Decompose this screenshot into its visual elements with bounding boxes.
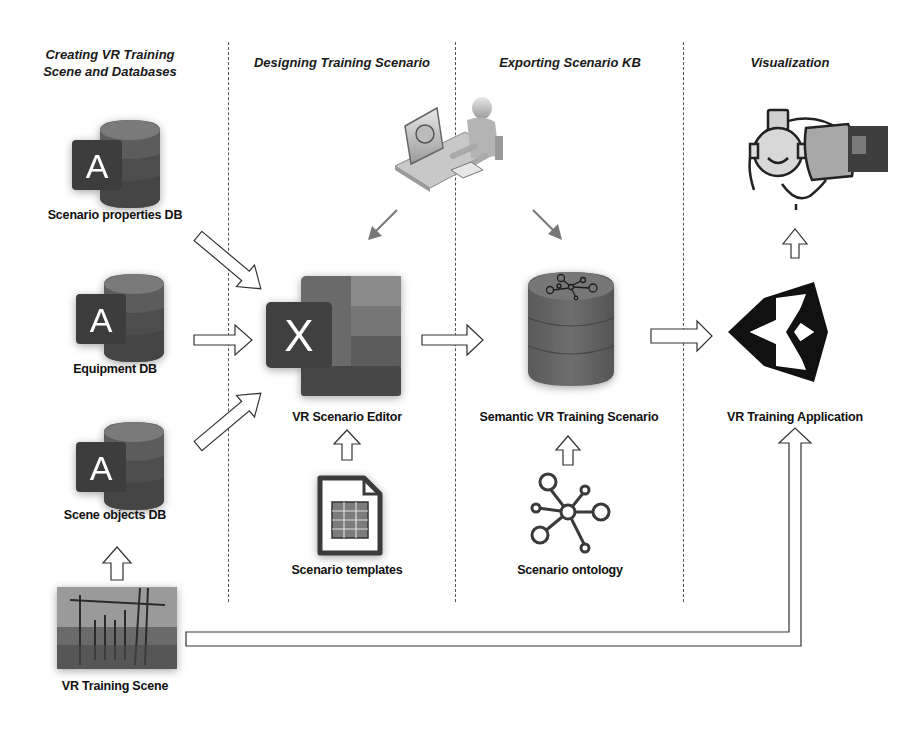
arrow-templates-to-editor bbox=[334, 430, 360, 460]
arrow-scene-to-application bbox=[186, 428, 811, 646]
unity-logo-icon bbox=[728, 282, 828, 382]
arrow-kb-to-application bbox=[651, 321, 712, 351]
label-vr-training-application: VR Training Application bbox=[695, 410, 895, 424]
arrow-editor-to-kb bbox=[422, 325, 483, 355]
arrow-user-to-kb bbox=[533, 210, 562, 240]
label-vr-scenario-editor: VR Scenario Editor bbox=[262, 410, 432, 424]
label-vr-training-scene: VR Training Scene bbox=[30, 679, 200, 693]
equipment-db-icon bbox=[76, 274, 164, 362]
arrow-equipment-to-editor bbox=[194, 325, 252, 355]
ontology-graph-icon bbox=[532, 474, 609, 552]
knowledge-base-database-icon bbox=[528, 272, 614, 386]
arrow-properties-to-editor bbox=[189, 225, 270, 299]
label-scenario-templates: Scenario templates bbox=[262, 563, 432, 577]
label-scene-objects-db: Scene objects DB bbox=[30, 508, 200, 522]
vr-headset-icon bbox=[750, 110, 888, 210]
arrow-application-to-headset bbox=[783, 229, 807, 258]
excel-icon: X bbox=[266, 276, 401, 396]
arrow-user-to-editor bbox=[368, 210, 397, 240]
arrow-ontology-to-kb bbox=[556, 436, 580, 465]
spreadsheet-file-icon bbox=[320, 478, 380, 553]
arrow-scene-to-sceneobjects bbox=[103, 547, 131, 580]
scene-objects-db-icon bbox=[76, 422, 164, 510]
label-semantic-vr-training-scenario: Semantic VR Training Scenario bbox=[455, 410, 683, 424]
label-scenario-ontology: Scenario ontology bbox=[480, 563, 660, 577]
label-equipment-db: Equipment DB bbox=[30, 362, 200, 376]
arrow-sceneobjects-to-editor bbox=[189, 383, 270, 457]
label-scenario-properties-db: Scenario properties DB bbox=[30, 208, 200, 222]
scenario-properties-db-icon bbox=[72, 120, 160, 208]
vr-training-scene-image bbox=[57, 587, 177, 669]
svg-text:X: X bbox=[284, 311, 313, 360]
user-at-computer-icon bbox=[395, 97, 503, 192]
